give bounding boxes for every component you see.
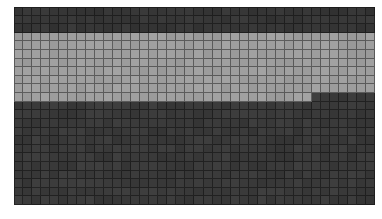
heatmap-cell — [167, 162, 176, 171]
heatmap-cell — [158, 136, 167, 145]
heatmap-cell — [330, 179, 339, 188]
heatmap-cell — [41, 50, 50, 59]
heatmap-cell — [95, 33, 104, 42]
heatmap-cell — [176, 196, 185, 205]
heatmap-cell — [240, 93, 249, 102]
heatmap-cell — [348, 84, 357, 93]
heatmap-cell — [213, 50, 222, 59]
heatmap-cell — [222, 7, 231, 16]
heatmap-cell — [348, 179, 357, 188]
heatmap-cell — [149, 162, 158, 171]
heatmap-cell — [249, 196, 258, 205]
heatmap-cell — [194, 102, 203, 111]
heatmap-cell — [357, 59, 366, 68]
heatmap-cell — [176, 145, 185, 154]
heatmap-cell — [122, 136, 131, 145]
heatmap-cell — [113, 196, 122, 205]
heatmap-cell — [149, 145, 158, 154]
heatmap-cell — [231, 102, 240, 111]
heatmap-cell — [68, 171, 77, 180]
heatmap-cell — [204, 188, 213, 197]
heatmap-cell — [258, 179, 267, 188]
heatmap-cell — [131, 84, 140, 93]
heatmap-cell — [204, 93, 213, 102]
heatmap-cell — [149, 102, 158, 111]
heatmap-cell — [267, 162, 276, 171]
heatmap-cell — [104, 84, 113, 93]
heatmap-cell — [185, 84, 194, 93]
heatmap-cell — [276, 128, 285, 137]
heatmap-cell — [321, 24, 330, 33]
heatmap-cell — [231, 128, 240, 137]
heatmap-cell — [303, 76, 312, 85]
heatmap-cell — [50, 93, 59, 102]
heatmap-cell — [285, 145, 294, 154]
heatmap-cell — [194, 50, 203, 59]
heatmap-cell — [176, 84, 185, 93]
heatmap-cell — [213, 110, 222, 119]
heatmap-cell — [95, 145, 104, 154]
heatmap-cell — [158, 102, 167, 111]
heatmap-cell — [41, 110, 50, 119]
heatmap-cell — [113, 67, 122, 76]
heatmap-cell — [276, 67, 285, 76]
heatmap-cell — [321, 93, 330, 102]
heatmap-cell — [294, 188, 303, 197]
heatmap-cell — [77, 171, 86, 180]
heatmap-cell — [330, 24, 339, 33]
heatmap-cell — [231, 136, 240, 145]
heatmap-cell — [222, 145, 231, 154]
heatmap-cell — [77, 24, 86, 33]
heatmap-cell — [59, 59, 68, 68]
heatmap-cell — [131, 145, 140, 154]
heatmap-cell — [339, 110, 348, 119]
heatmap-cell — [194, 153, 203, 162]
heatmap-cell — [240, 179, 249, 188]
heatmap-cell — [303, 7, 312, 16]
heatmap-cell — [50, 188, 59, 197]
heatmap-cell — [339, 196, 348, 205]
heatmap-cell — [240, 41, 249, 50]
heatmap-cell — [312, 24, 321, 33]
heatmap-cell — [158, 145, 167, 154]
heatmap-cell — [231, 33, 240, 42]
heatmap-cell — [294, 128, 303, 137]
heatmap-cell — [140, 93, 149, 102]
heatmap-cell — [104, 171, 113, 180]
heatmap-cell — [240, 84, 249, 93]
heatmap-cell — [267, 128, 276, 137]
heatmap-cell — [357, 110, 366, 119]
heatmap-cell — [240, 128, 249, 137]
heatmap-cell — [86, 76, 95, 85]
heatmap-cell — [167, 171, 176, 180]
heatmap-cell — [276, 50, 285, 59]
heatmap-cell — [32, 93, 41, 102]
heatmap-cell — [23, 188, 32, 197]
heatmap-cell — [348, 7, 357, 16]
heatmap-cell — [303, 128, 312, 137]
heatmap-cell — [140, 7, 149, 16]
heatmap-cell — [348, 171, 357, 180]
heatmap-cell — [95, 102, 104, 111]
heatmap-cell — [86, 136, 95, 145]
heatmap-cell — [149, 110, 158, 119]
heatmap-cell — [140, 119, 149, 128]
heatmap-cell — [330, 67, 339, 76]
heatmap-cell — [113, 102, 122, 111]
heatmap-cell — [249, 145, 258, 154]
heatmap-cell — [357, 24, 366, 33]
heatmap-cell — [41, 128, 50, 137]
heatmap-cell — [339, 171, 348, 180]
heatmap-cell — [213, 171, 222, 180]
heatmap-cell — [330, 33, 339, 42]
heatmap-cell — [348, 41, 357, 50]
heatmap-cell — [249, 188, 258, 197]
heatmap-cell — [312, 93, 321, 102]
heatmap-cell — [222, 102, 231, 111]
heatmap-cell — [104, 110, 113, 119]
heatmap-cell — [312, 110, 321, 119]
heatmap-cell — [357, 16, 366, 25]
heatmap-cell — [213, 136, 222, 145]
heatmap-cell — [240, 188, 249, 197]
heatmap-cell — [249, 41, 258, 50]
